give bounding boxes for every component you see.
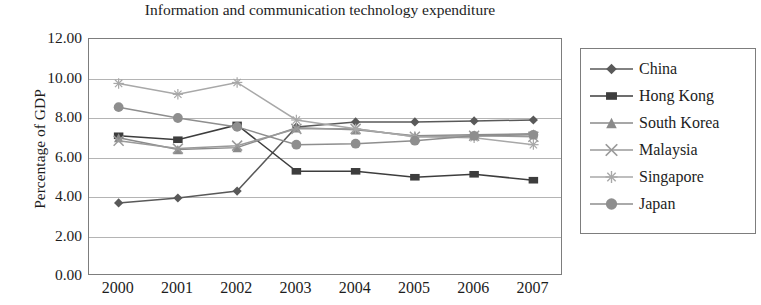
y-axis-tick-label: 10.00 (4, 70, 82, 86)
x-axis-tick-label: 2003 (265, 277, 325, 299)
x-axis-tick-label: 2004 (325, 277, 385, 299)
legend-item-japan[interactable]: Japan (581, 190, 755, 217)
chart-title: Information and communication technology… (60, 1, 580, 19)
plot-series-svg (89, 39, 563, 276)
square-marker-icon (588, 86, 635, 106)
legend-item-south-korea[interactable]: South Korea (581, 109, 755, 136)
legend-label: Japan (635, 195, 675, 213)
cross-marker-icon (588, 140, 635, 160)
y-axis-tick-labels: 12.0010.008.006.004.002.000.00 (0, 0, 82, 305)
chart-figure: Information and communication technology… (0, 0, 761, 305)
x-axis-tick-label: 2000 (88, 277, 148, 299)
asterisk-marker-icon (588, 167, 635, 187)
y-axis-tick-label: 6.00 (4, 149, 82, 165)
legend-label: Hong Kong (635, 87, 714, 105)
y-axis-tick-label: 12.00 (4, 30, 82, 46)
x-axis-tick-label: 2002 (206, 277, 266, 299)
y-axis-tick-label: 2.00 (4, 228, 82, 244)
y-axis-tick-label: 0.00 (4, 267, 82, 283)
legend-item-singapore[interactable]: Singapore (581, 163, 755, 190)
circle-marker-icon (588, 194, 635, 214)
plot-area (88, 38, 562, 275)
x-axis-tick-label: 2006 (443, 277, 503, 299)
legend-label: Singapore (635, 168, 704, 186)
chart-legend: ChinaHong KongSouth KoreaMalaysiaSingapo… (580, 48, 756, 234)
x-axis-tick-label: 2005 (384, 277, 444, 299)
x-axis-tick-labels: 20002001200220032004200520062007 (88, 277, 562, 303)
legend-item-hong-kong[interactable]: Hong Kong (581, 82, 755, 109)
legend-label: China (635, 60, 677, 78)
legend-item-malaysia[interactable]: Malaysia (581, 136, 755, 163)
y-axis-tick-label: 4.00 (4, 188, 82, 204)
triangle-marker-icon (588, 113, 635, 133)
legend-label: Malaysia (635, 141, 698, 159)
x-axis-tick-label: 2007 (502, 277, 562, 299)
y-axis-tick-label: 8.00 (4, 109, 82, 125)
diamond-marker-icon (588, 59, 635, 79)
legend-label: South Korea (635, 114, 719, 132)
legend-item-china[interactable]: China (581, 55, 755, 82)
x-axis-tick-label: 2001 (147, 277, 207, 299)
